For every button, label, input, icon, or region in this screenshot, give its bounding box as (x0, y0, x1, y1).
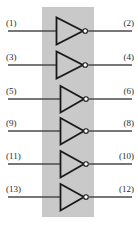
pin-label-output-4: (8) (124, 118, 135, 128)
inverter-bubble-6 (84, 195, 89, 200)
inverter-bubble-2 (83, 63, 88, 68)
inverter-diagram (0, 0, 138, 236)
figure-container: (1) (3) (5) (9) (11) (13) (2) (4) (6) (8… (0, 0, 138, 236)
pin-label-input-4: (9) (6, 118, 17, 128)
inverter-bubble-4 (84, 129, 89, 134)
pin-label-output-1: (2) (124, 18, 135, 28)
pin-label-input-6: (13) (6, 184, 21, 194)
inverter-bubble-1 (83, 29, 88, 34)
pin-label-input-3: (5) (6, 86, 17, 96)
pin-label-output-6: (12) (119, 184, 134, 194)
inverter-bubble-5 (84, 162, 89, 167)
pin-label-output-3: (6) (124, 86, 135, 96)
pin-label-input-5: (11) (6, 151, 21, 161)
pin-label-input-2: (3) (6, 52, 17, 62)
inverter-bubble-3 (84, 97, 89, 102)
pin-label-output-2: (4) (124, 52, 135, 62)
pin-label-input-1: (1) (6, 18, 17, 28)
pin-label-output-5: (10) (119, 151, 134, 161)
caption-strip (0, 224, 138, 236)
